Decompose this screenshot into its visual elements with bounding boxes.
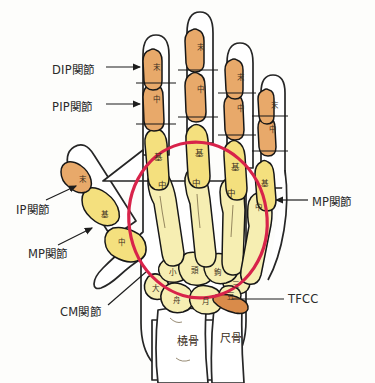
forearm-bones — [156, 305, 244, 383]
ip-leader — [46, 186, 76, 200]
callout-mp-little-label: MP関節 — [312, 193, 352, 209]
callout-cm-label: CM関節 — [60, 303, 101, 319]
proximal-index — [145, 129, 169, 191]
hand-skeleton-illustration: .sk { fill:#ffffff; stroke:#262626; stro… — [0, 0, 375, 383]
proximal-middle — [186, 125, 210, 189]
callout-mp-thumb-label: MP関節 — [28, 245, 68, 261]
metacarpal-thumb — [105, 227, 146, 261]
mp-thumb-leader — [58, 228, 92, 245]
radius-bone — [156, 308, 208, 383]
callout-pip-label: PIP関節 — [52, 98, 92, 114]
callout-dip-label: DIP関節 — [52, 61, 94, 77]
distal-phalanx-little — [258, 89, 274, 124]
callout-ip-label: IP関節 — [16, 201, 49, 217]
middle-phalanx-ring — [224, 94, 244, 140]
distal-phalanx-index — [143, 49, 162, 90]
callout-tfcc-label: TFCC — [288, 292, 319, 306]
middle-phalanx-middle — [185, 73, 206, 123]
distal-phalanx-middle — [185, 29, 204, 72]
ulna-bone — [211, 305, 244, 383]
hand-anatomy-figure: .sk { fill:#ffffff; stroke:#262626; stro… — [0, 0, 375, 383]
